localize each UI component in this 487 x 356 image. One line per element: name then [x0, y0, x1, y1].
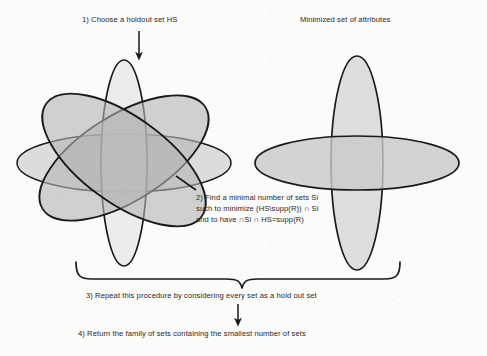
minimized-set-label: Minimized set of attributes	[300, 14, 390, 25]
step-1-label: 1) Choose a holdout set HS	[82, 14, 177, 25]
right-horizontal-ellipse	[255, 136, 459, 190]
right-ellipse-group	[255, 56, 459, 270]
step-2-line-2: such to minimize (HS\supp(R)) ∩ Si	[196, 203, 356, 214]
step-3-label: 3) Repeat this procedure by considering …	[86, 290, 317, 301]
diagram-page: 1) Choose a holdout set HS Minimized set…	[0, 0, 487, 356]
step-2-line-3: and to have ∩Si ∩ HS=supp(R)	[196, 214, 356, 225]
left-ellipse-group	[17, 60, 231, 266]
step-2-label: 2) Find a minimal number of sets Si such…	[196, 192, 356, 225]
algorithm-diagram	[0, 0, 487, 356]
step-2-line-1: 2) Find a minimal number of sets Si	[196, 192, 356, 203]
step-4-label: 4) Return the family of sets containing …	[78, 328, 306, 339]
